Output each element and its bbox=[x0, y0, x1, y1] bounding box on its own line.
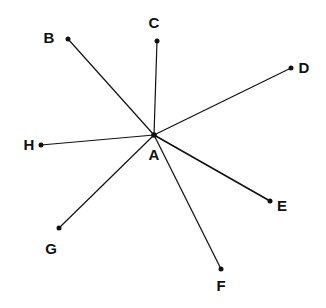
segments-group bbox=[41, 39, 291, 269]
segment-ae bbox=[154, 135, 270, 201]
point-b bbox=[66, 37, 71, 42]
point-d bbox=[289, 66, 294, 71]
segment-ac bbox=[154, 41, 157, 135]
label-b: B bbox=[44, 29, 55, 46]
segment-ad bbox=[154, 68, 291, 135]
segment-ah bbox=[41, 135, 154, 145]
point-e bbox=[268, 199, 273, 204]
label-h: H bbox=[24, 136, 35, 153]
segment-ag bbox=[59, 135, 154, 228]
labels-group: ABCDEFGH bbox=[24, 14, 310, 294]
label-a: A bbox=[149, 146, 160, 163]
point-g bbox=[57, 226, 62, 231]
point-a bbox=[151, 132, 157, 138]
points-group bbox=[39, 37, 294, 272]
label-e: E bbox=[277, 197, 287, 214]
segment-ab bbox=[68, 39, 154, 135]
label-g: G bbox=[45, 240, 57, 257]
segment-af bbox=[154, 135, 221, 269]
point-c bbox=[155, 39, 160, 44]
label-d: D bbox=[299, 59, 310, 76]
point-f bbox=[219, 267, 224, 272]
label-c: C bbox=[149, 14, 160, 31]
label-f: F bbox=[216, 277, 225, 294]
point-h bbox=[39, 143, 44, 148]
diagram-canvas: ABCDEFGH bbox=[0, 0, 326, 308]
